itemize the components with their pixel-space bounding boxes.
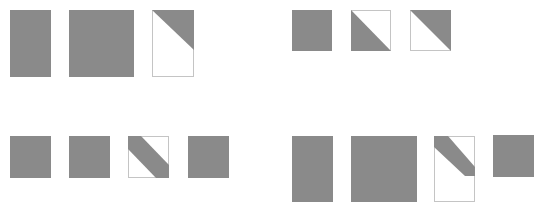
shaded-region-icon (152, 10, 194, 77)
solid-square-tile (493, 135, 534, 177)
solid-square-tile (69, 10, 134, 77)
partial-fill-tile (410, 10, 451, 51)
solid-square-tile (10, 136, 51, 178)
partial-fill-tile (128, 136, 169, 178)
partial-fill-tile (351, 10, 391, 51)
partial-fill-tile (152, 10, 194, 77)
pattern-diagram (0, 0, 537, 208)
partial-fill-tile (434, 136, 475, 202)
shaded-region-icon (351, 10, 391, 51)
solid-square-tile (188, 136, 229, 178)
solid-square-tile (351, 136, 417, 202)
shaded-region-icon (128, 136, 169, 178)
solid-square-tile (292, 10, 332, 51)
solid-square-tile (292, 136, 333, 202)
solid-square-tile (10, 10, 51, 77)
shaded-region-icon (410, 10, 451, 51)
solid-square-tile (69, 136, 110, 178)
shaded-region-icon (434, 136, 475, 202)
